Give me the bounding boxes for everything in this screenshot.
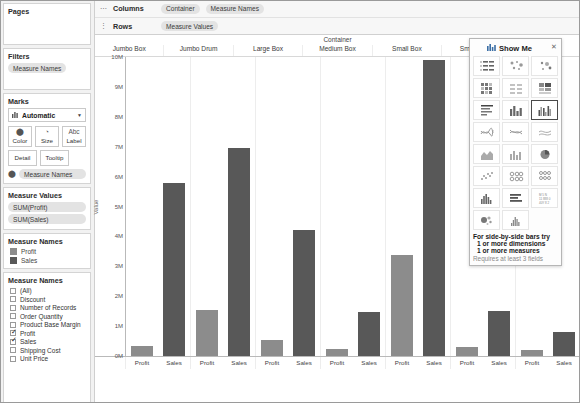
filter-checkbox-row[interactable]: Shipping Cost	[10, 347, 86, 354]
close-icon[interactable]: ✕	[551, 43, 557, 51]
filter-checkbox-row[interactable]: Product Base Margin	[10, 321, 86, 328]
checkbox-icon[interactable]	[10, 347, 16, 353]
lines-discrete-icon[interactable]	[502, 122, 529, 142]
bar-sales[interactable]	[488, 311, 510, 356]
checkbox-icon[interactable]	[10, 322, 16, 328]
column-header[interactable]: Medium Box	[302, 45, 371, 56]
columns-shelf[interactable]: ⋯ Columns Container Measure Names	[95, 0, 580, 17]
filter-checkbox-row[interactable]: Sales	[10, 338, 86, 345]
bar-sales[interactable]	[293, 230, 315, 356]
x-axis-label[interactable]: Sales	[485, 357, 513, 369]
heat-map-icon[interactable]	[502, 56, 529, 76]
x-axis-label[interactable]: Profit	[518, 357, 546, 369]
checkbox-icon[interactable]	[10, 296, 16, 302]
bar-profit[interactable]	[456, 347, 478, 356]
checkbox-icon[interactable]	[10, 339, 16, 345]
label-button[interactable]: Abc Label	[62, 126, 86, 147]
dual-combination-icon[interactable]	[502, 144, 529, 164]
bar-sales[interactable]	[228, 148, 250, 356]
checkbox-icon[interactable]	[10, 305, 16, 311]
x-axis-label[interactable]: Sales	[355, 357, 383, 369]
columns-pill-container[interactable]: Container	[161, 4, 200, 14]
bar-sales[interactable]	[553, 332, 575, 356]
packed-bubbles-icon[interactable]	[473, 210, 500, 230]
filter-checkbox-row[interactable]: Discount	[10, 296, 86, 303]
marks-color-encoding[interactable]: ⬤ Measure Names	[8, 169, 86, 179]
x-axis-label[interactable]: Profit	[258, 357, 286, 369]
column-header[interactable]: Jumbo Box	[95, 45, 163, 56]
column-header[interactable]: Large Box	[233, 45, 302, 56]
size-button-label: Size	[41, 137, 53, 144]
x-axis-label[interactable]: Sales	[550, 357, 578, 369]
filled-map-icon[interactable]	[502, 78, 529, 98]
x-axis-label[interactable]: Sales	[160, 357, 188, 369]
bar-profit[interactable]	[391, 255, 413, 356]
y-axis: Value 0M1M2M3M4M5M6M7M8M9M10M	[95, 57, 125, 356]
size-button[interactable]: ◔ Size	[35, 126, 59, 147]
filter-checkbox-row[interactable]: (All)	[10, 287, 86, 294]
horizontal-bars-icon[interactable]	[473, 100, 500, 120]
area-chart-continuous-icon[interactable]	[531, 122, 558, 142]
rows-pill-measure-values[interactable]: Measure Values	[161, 21, 218, 31]
filter-checkbox-label: Discount	[20, 296, 45, 303]
column-header[interactable]: Small Box	[372, 45, 441, 56]
measure-value-sum-sales[interactable]: SUM(Sales)	[8, 214, 86, 224]
bar-profit[interactable]	[521, 350, 543, 356]
text-table-icon[interactable]	[473, 56, 500, 76]
legend-item-profit[interactable]: Profit	[10, 248, 86, 255]
filter-checkbox-row[interactable]: Number of Records	[10, 304, 86, 311]
column-header[interactable]: Jumbo Drum	[163, 45, 232, 56]
bar-profit[interactable]	[131, 346, 153, 356]
x-axis-label[interactable]: Profit	[453, 357, 481, 369]
marks-encoding-pill-label[interactable]: Measure Names	[19, 169, 86, 179]
filter-checkbox-row[interactable]: Profit	[10, 330, 86, 337]
bar-sales[interactable]	[163, 183, 185, 356]
marks-card: Marks Automatic ▼ ⬤ Color ◔ Size Abc	[3, 93, 91, 184]
bar-profit[interactable]	[326, 349, 348, 356]
lines-continuous-icon[interactable]	[473, 122, 500, 142]
scatter-plot-icon[interactable]	[473, 166, 500, 186]
bar-sales[interactable]	[358, 312, 380, 356]
bar-profit[interactable]	[196, 310, 218, 356]
filter-pill-measure-names[interactable]: Measure Names	[8, 63, 66, 73]
show-me-panel[interactable]: Show Me ✕ M 5 N11 888 040Y 8 2 For side-…	[469, 38, 562, 266]
mark-type-dropdown[interactable]: Automatic ▼	[8, 108, 86, 122]
side-by-side-circle-icon[interactable]	[531, 166, 558, 186]
filter-checkbox-row[interactable]: Unit Price	[10, 355, 86, 362]
symbol-map-icon[interactable]	[473, 78, 500, 98]
x-axis-label[interactable]: Profit	[388, 357, 416, 369]
x-axis-label[interactable]: Profit	[323, 357, 351, 369]
pie-chart-icon[interactable]	[531, 144, 558, 164]
x-axis-label[interactable]: Sales	[225, 357, 253, 369]
bar-sales[interactable]	[423, 60, 445, 356]
x-axis-label[interactable]: Profit	[128, 357, 156, 369]
side-by-side-bars-icon[interactable]	[531, 100, 558, 120]
pie-chart-small-icon[interactable]	[531, 78, 558, 98]
highlight-table-icon[interactable]	[531, 56, 558, 76]
area-chart-discrete-icon[interactable]	[473, 144, 500, 164]
x-axis-label[interactable]: Sales	[420, 357, 448, 369]
tooltip-button[interactable]: Tooltip	[40, 150, 69, 166]
measure-value-sum-profit[interactable]: SUM(Profit)	[8, 202, 86, 212]
packed-bubbles-text-icon[interactable]: M 5 N11 888 040Y 8 2	[531, 188, 558, 208]
color-legend-card: Measure Names Profit Sales	[3, 233, 91, 269]
legend-item-sales[interactable]: Sales	[10, 257, 86, 264]
show-me-footer: For side-by-side bars try 1 or more dime…	[473, 233, 558, 262]
histogram-bins-icon[interactable]	[502, 210, 529, 230]
color-button[interactable]: ⬤ Color	[8, 126, 32, 147]
columns-pill-measure-names[interactable]: Measure Names	[206, 4, 264, 14]
detail-button[interactable]: Detail	[8, 150, 37, 166]
histogram-icon[interactable]	[473, 188, 500, 208]
filters-title: Filters	[4, 49, 90, 63]
bullet-graph-icon[interactable]	[502, 188, 529, 208]
filter-checkbox-row[interactable]: Order Quantity	[10, 313, 86, 320]
stacked-bars-icon[interactable]	[502, 100, 529, 120]
checkbox-icon[interactable]	[10, 288, 16, 294]
bar-profit[interactable]	[261, 340, 283, 356]
circle-views-icon[interactable]	[502, 166, 529, 186]
checkbox-icon[interactable]	[10, 313, 16, 319]
x-axis-label[interactable]: Sales	[290, 357, 318, 369]
checkbox-icon[interactable]	[10, 356, 16, 362]
rows-shelf[interactable]: ⋮ Rows Measure Values	[95, 17, 580, 34]
x-axis-label[interactable]: Profit	[193, 357, 221, 369]
